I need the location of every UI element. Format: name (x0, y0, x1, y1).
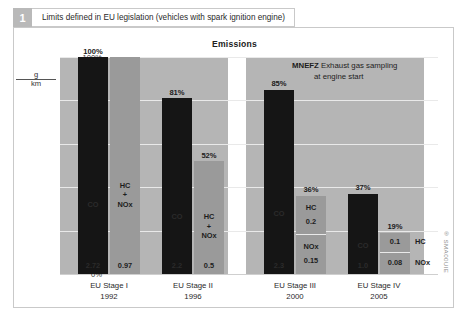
bar-percent-label: 52% (201, 151, 216, 160)
bar-co: 81%CO2.2 (162, 98, 192, 274)
bar-hc-nox: 19%HC0.1NOx0.08 (380, 233, 410, 274)
bar-percent-label: 81% (169, 88, 184, 97)
segment-label: HC (296, 203, 326, 212)
annotation-line-1: MNEFZ Exhaust gas sampling (292, 61, 397, 72)
category-name: EU Stage II (148, 281, 238, 292)
plot-area: 0%20%40%60%80%100%gkm100%CO2.72HC+NOx0.9… (60, 57, 438, 274)
category-year: 2000 (250, 292, 340, 303)
segment-label: NOx (415, 258, 430, 267)
segment-label-line: HC (110, 181, 140, 190)
bar-co: 85%CO2.3 (264, 90, 294, 274)
category-name: EU Stage I (64, 281, 154, 292)
chart-frame: Emissions 0%20%40%60%80%100%gkm100%CO2.7… (13, 27, 454, 308)
bar-hc-nox: 36%HC0.2NOx0.15 (296, 196, 326, 274)
x-axis-category-label: EU Stage IV2005 (334, 281, 424, 302)
segment-label-line: + (110, 190, 140, 199)
segment-divider (380, 252, 410, 253)
figure-number-badge: 1 (13, 8, 32, 27)
watermark: ® SMA00UIE (443, 230, 450, 273)
chart-title: Emissions (14, 39, 455, 49)
segment-label-line: NOx (194, 231, 224, 240)
segment-label: CO (348, 241, 378, 250)
segment-value: 0.2 (296, 217, 326, 226)
gridline (60, 274, 438, 275)
bar-hc-nox: HC+NOx0.97 (110, 57, 140, 274)
annotation-line-2: at engine start (292, 72, 397, 83)
bar-percent-label: 36% (303, 185, 318, 194)
segment-value: 0.1 (380, 237, 410, 246)
segment-value: 2.3 (264, 261, 294, 270)
category-name: EU Stage IV (334, 281, 424, 292)
unit-numerator: g (16, 71, 56, 79)
category-name: EU Stage III (250, 281, 340, 292)
bar-hc-nox: 52%HC+NOx0.5 (194, 161, 224, 274)
figure-title-box: Limits defined in EU legislation (vehicl… (32, 8, 295, 27)
x-axis-category-label: EU Stage II1996 (148, 281, 238, 302)
bar-co: 37%CO1.0 (348, 194, 378, 274)
segment-label: CO (264, 209, 294, 218)
bar-percent-label: 85% (271, 79, 286, 88)
segment-label: CO (78, 200, 108, 209)
bar-percent-label: 100% (83, 47, 102, 56)
segment-value: 1.0 (348, 261, 378, 270)
segment-label-line: + (194, 222, 224, 231)
segment-label: HC+NOx (194, 212, 224, 240)
bar-co: 100%CO2.72 (78, 57, 108, 274)
figure-title: Limits defined in EU legislation (vehicl… (42, 13, 285, 22)
segment-label: CO (162, 212, 192, 221)
annotation-emphasis: MNEFZ (292, 61, 319, 70)
y-axis-unit-label: gkm (16, 71, 56, 88)
segment-label: NOx (296, 242, 326, 251)
segment-label: HC+NOx (110, 181, 140, 209)
segment-value: 0.97 (110, 261, 140, 270)
x-axis-category-label: EU Stage I1992 (64, 281, 154, 302)
bar-percent-label: 37% (355, 183, 370, 192)
segment-label-line: HC (194, 212, 224, 221)
x-axis-category-label: EU Stage III2000 (250, 281, 340, 302)
segment-label-line: NOx (110, 200, 140, 209)
figure-header: 1 Limits defined in EU legislation (vehi… (13, 8, 295, 27)
category-year: 1992 (64, 292, 154, 303)
segment-divider (296, 234, 326, 235)
unit-denominator: km (16, 79, 56, 88)
segment-value: 0.08 (380, 258, 410, 267)
segment-label: HC (415, 237, 426, 246)
segment-value: 0.15 (296, 256, 326, 265)
segment-value: 0.5 (194, 261, 224, 270)
segment-value: 2.2 (162, 261, 192, 270)
segment-value: 2.72 (78, 261, 108, 270)
bar-percent-label: 19% (387, 222, 402, 231)
category-year: 2005 (334, 292, 424, 303)
mnefz-annotation: MNEFZ Exhaust gas samplingat engine star… (292, 61, 397, 82)
category-year: 1996 (148, 292, 238, 303)
chart-page: 1 Limits defined in EU legislation (vehi… (0, 0, 467, 318)
